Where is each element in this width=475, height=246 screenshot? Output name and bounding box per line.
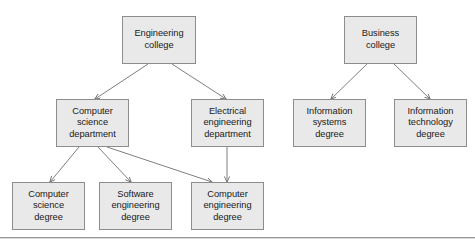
node-information-technology-degree[interactable]: Information technology degree [394,99,467,147]
node-label-computer-engineering-degree: Computer engineering degree [192,189,263,224]
edge-cs-to-ce-degree [107,147,212,182]
node-computer-science-degree[interactable]: Computer science degree [12,182,85,230]
node-label-information-systems-degree: Information systems degree [294,106,365,141]
edge-cs-to-cs-degree [50,147,79,182]
node-engineering-college[interactable]: Engineering college [122,16,196,64]
node-label-engineering-college: Engineering college [123,28,195,51]
node-software-engineering-degree[interactable]: Software engineering degree [99,182,172,230]
node-computer-science-department[interactable]: Computer science department [56,99,129,147]
node-label-computer-science-degree: Computer science degree [13,189,84,224]
node-label-electrical-engineering-department: Electrical engineering department [192,106,263,141]
node-computer-engineering-degree[interactable]: Computer engineering degree [191,182,264,230]
footer-divider [0,237,475,239]
edge-eng-to-ee-dept [172,64,226,99]
node-information-systems-degree[interactable]: Information systems degree [293,99,366,147]
node-label-information-technology-degree: Information technology degree [395,106,466,141]
node-electrical-engineering-department[interactable]: Electrical engineering department [191,99,264,147]
edge-bus-to-is-degree [331,64,367,99]
edge-bus-to-it-degree [394,64,430,99]
node-label-software-engineering-degree: Software engineering degree [100,189,171,224]
node-label-business-college: Business college [345,28,416,51]
diagram-canvas: Engineering collegeComputer science depa… [0,0,475,246]
node-business-college[interactable]: Business college [344,16,417,64]
node-label-computer-science-department: Computer science department [57,106,128,141]
edge-eng-to-cs-dept [95,64,148,99]
edge-cs-to-se-degree [98,147,131,182]
